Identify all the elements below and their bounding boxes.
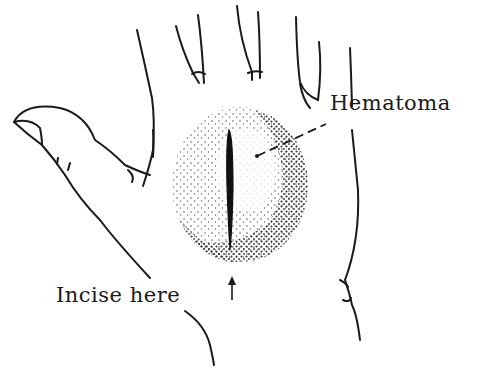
hand-illustration: Hematoma Incise here (0, 0, 482, 374)
little-finger (296, 17, 318, 100)
hematoma-label: Hematoma (330, 91, 451, 115)
incise-here-label: Incise here (56, 283, 180, 307)
index-finger (137, 30, 154, 186)
hand-drawing (0, 0, 482, 374)
thumb-outline (14, 107, 150, 175)
middle-finger (176, 26, 199, 83)
thumb-base-line (65, 175, 150, 278)
ring-finger (237, 6, 252, 80)
hematoma-stipple (172, 107, 313, 263)
wrist-line (185, 311, 214, 365)
incise-arrow-icon (228, 276, 236, 300)
